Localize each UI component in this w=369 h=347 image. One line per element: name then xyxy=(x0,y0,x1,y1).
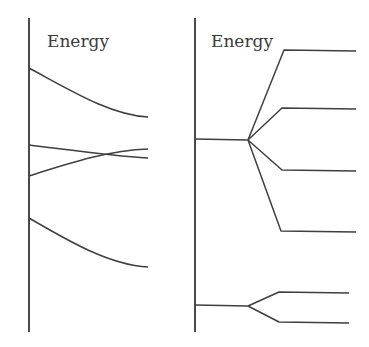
left-panel: Energy xyxy=(29,18,148,332)
lower-curve xyxy=(29,218,148,267)
right-energy-label: Energy xyxy=(211,31,273,51)
lower-level-split xyxy=(195,292,349,323)
upper-curve xyxy=(29,68,148,117)
left-energy-label: Energy xyxy=(47,31,109,51)
energy-level-diagram: Energy Energy xyxy=(0,0,369,347)
middle-falling-curve xyxy=(29,145,148,158)
right-panel: Energy xyxy=(195,18,356,332)
upper-level-split xyxy=(195,50,356,232)
